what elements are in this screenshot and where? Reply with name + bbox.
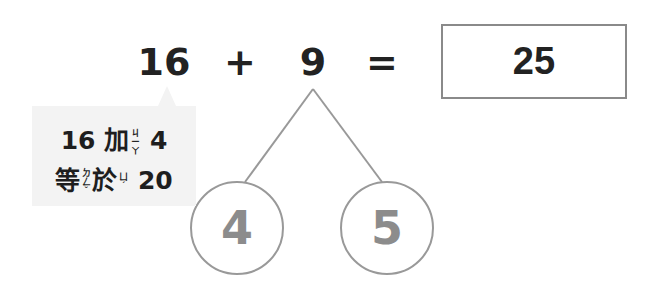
- hint-bubble: 16 加ㄐㄧㄚ 4 等ㄉㄥˇ於ㄩˊ 20: [32, 106, 196, 206]
- hint-word-yu: 於: [92, 166, 117, 195]
- hint-result: 20: [138, 166, 173, 195]
- hint-number-a: 16: [61, 126, 96, 155]
- hint-line-1: 16 加ㄐㄧㄚ 4: [32, 120, 196, 156]
- hint-line-2: 等ㄉㄥˇ於ㄩˊ 20: [32, 160, 196, 196]
- hint-word-deng: 等: [55, 166, 80, 195]
- equals-sign: =: [362, 40, 402, 84]
- bond-line-left: [245, 89, 313, 182]
- hint-bopomofo-deng: ㄉㄥˇ: [81, 169, 91, 196]
- hint-bubble-tail: [158, 86, 176, 106]
- bond-part-left: 4: [190, 181, 284, 275]
- bond-line-right: [313, 89, 382, 182]
- answer-box[interactable]: 25: [441, 24, 627, 99]
- bond-part-right: 5: [340, 181, 434, 275]
- hint-bopomofo-add: ㄐㄧㄚ: [130, 129, 140, 156]
- hint-number-b: 4: [150, 126, 167, 155]
- hint-word-add: 加: [104, 126, 129, 155]
- left-operand: 16: [132, 40, 196, 84]
- plus-sign: +: [220, 40, 260, 84]
- hint-bopomofo-yu: ㄩˊ: [118, 173, 128, 191]
- answer-value: 25: [513, 40, 555, 83]
- right-operand: 9: [296, 40, 330, 84]
